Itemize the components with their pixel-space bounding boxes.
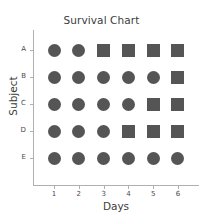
marker-circle-B-5 bbox=[147, 71, 160, 84]
marker-square-B-6 bbox=[171, 71, 184, 84]
marker-circle-E-4 bbox=[122, 152, 135, 165]
y-tick-C bbox=[30, 104, 33, 105]
y-tick-label-C: C bbox=[8, 99, 26, 107]
marker-square-C-6 bbox=[171, 98, 184, 111]
x-tick-2 bbox=[79, 186, 80, 189]
survival-chart: Survival Chart Days Subject 123456ABCDE bbox=[0, 0, 203, 224]
marker-square-A-6 bbox=[171, 44, 184, 57]
marker-circle-D-1 bbox=[48, 125, 61, 138]
chart-title: Survival Chart bbox=[0, 14, 203, 26]
marker-circle-A-1 bbox=[48, 44, 61, 57]
marker-circle-E-5 bbox=[147, 152, 160, 165]
x-tick-label-1: 1 bbox=[44, 190, 64, 198]
x-tick-5 bbox=[153, 186, 154, 189]
marker-circle-C-3 bbox=[97, 98, 110, 111]
marker-circle-B-1 bbox=[48, 71, 61, 84]
y-tick-B bbox=[30, 77, 33, 78]
marker-circle-E-6 bbox=[171, 152, 184, 165]
y-tick-label-D: D bbox=[8, 126, 26, 134]
marker-square-C-5 bbox=[147, 98, 160, 111]
x-tick-3 bbox=[104, 186, 105, 189]
x-tick-label-3: 3 bbox=[94, 190, 114, 198]
y-tick-label-A: A bbox=[8, 45, 26, 53]
marker-circle-C-4 bbox=[122, 98, 135, 111]
marker-circle-D-3 bbox=[97, 125, 110, 138]
x-tick-4 bbox=[128, 186, 129, 189]
y-tick-label-B: B bbox=[8, 72, 26, 80]
marker-circle-B-2 bbox=[72, 71, 85, 84]
y-tick-label-E: E bbox=[8, 153, 26, 161]
x-axis-spine bbox=[33, 185, 199, 186]
y-tick-E bbox=[30, 158, 33, 159]
marker-circle-B-4 bbox=[122, 71, 135, 84]
marker-circle-E-2 bbox=[72, 152, 85, 165]
marker-square-D-6 bbox=[171, 125, 184, 138]
x-tick-6 bbox=[178, 186, 179, 189]
x-tick-label-6: 6 bbox=[168, 190, 188, 198]
marker-circle-E-3 bbox=[97, 152, 110, 165]
y-axis-title: Subject bbox=[7, 56, 19, 136]
y-tick-A bbox=[30, 50, 33, 51]
y-axis-spine bbox=[33, 30, 34, 185]
marker-circle-D-2 bbox=[72, 125, 85, 138]
x-tick-label-4: 4 bbox=[118, 190, 138, 198]
marker-circle-C-1 bbox=[48, 98, 61, 111]
x-tick-label-2: 2 bbox=[69, 190, 89, 198]
marker-circle-C-2 bbox=[72, 98, 85, 111]
x-tick-label-5: 5 bbox=[143, 190, 163, 198]
x-tick-1 bbox=[54, 186, 55, 189]
marker-circle-A-2 bbox=[72, 44, 85, 57]
marker-circle-E-1 bbox=[48, 152, 61, 165]
x-axis-title: Days bbox=[33, 200, 199, 212]
marker-square-D-5 bbox=[147, 125, 160, 138]
marker-square-A-3 bbox=[97, 44, 110, 57]
marker-square-A-4 bbox=[122, 44, 135, 57]
marker-square-A-5 bbox=[147, 44, 160, 57]
marker-circle-B-3 bbox=[97, 71, 110, 84]
y-tick-D bbox=[30, 131, 33, 132]
marker-square-D-4 bbox=[122, 125, 135, 138]
